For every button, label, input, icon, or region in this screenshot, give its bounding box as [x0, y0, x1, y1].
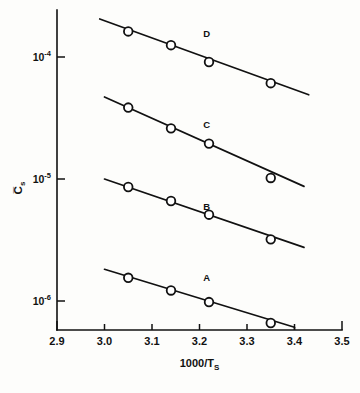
x-tick-label: 3.0: [97, 335, 112, 347]
series-label-d: D: [203, 28, 210, 39]
data-point-marker: [167, 41, 176, 50]
x-tick-label: 3.2: [192, 335, 207, 347]
x-tick-label: 3.5: [334, 335, 349, 347]
data-point-marker: [266, 174, 275, 183]
data-point-marker: [167, 197, 176, 206]
svg-text:C̅s: C̅s: [12, 181, 27, 194]
y-tick-label: 10-4: [33, 49, 52, 63]
data-point-marker: [266, 79, 275, 88]
data-point-marker: [205, 58, 214, 67]
data-point-marker: [167, 124, 176, 133]
caption-fragment: [0, 382, 360, 393]
arrhenius-plot: ABCD2.93.03.13.23.33.43.510-410-510-6100…: [0, 0, 360, 393]
data-point-marker: [205, 298, 214, 307]
x-axis-title: 1000/TS: [180, 357, 220, 372]
data-point-marker: [266, 319, 275, 328]
x-tick-label: 3.4: [287, 335, 303, 347]
axes-group: [57, 10, 342, 330]
data-series-c: [105, 97, 305, 186]
data-point-marker: [124, 183, 133, 192]
data-point-marker: [167, 286, 176, 295]
y-tick-label: 10-5: [33, 171, 51, 185]
series-label-c: C: [203, 119, 210, 130]
data-point-marker: [266, 235, 275, 244]
data-point-marker: [124, 27, 133, 36]
data-series-b: [105, 179, 305, 247]
x-tick-label: 2.9: [49, 335, 64, 347]
x-tick-label: 3.1: [144, 335, 159, 347]
axis-labels-group: ABCD2.93.03.13.23.33.43.510-410-510-6100…: [12, 28, 350, 372]
y-axis-title: C̅s: [12, 181, 27, 194]
data-point-marker: [205, 139, 214, 148]
series-label-b: B: [203, 201, 210, 212]
x-tick-label: 3.3: [239, 335, 254, 347]
y-tick-label: 10-6: [33, 293, 51, 307]
figure-panel: ABCD2.93.03.13.23.33.43.510-410-510-6100…: [0, 0, 360, 393]
data-point-marker: [124, 273, 133, 282]
data-point-marker: [124, 103, 133, 112]
data-series-a: [105, 269, 295, 330]
series-group: [100, 19, 309, 330]
series-label-a: A: [203, 272, 210, 283]
